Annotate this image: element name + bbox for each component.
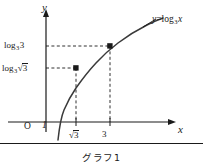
log-argument: 3 [20,40,25,50]
radical-sqrt3: √3 [69,130,79,140]
plot-area [0,0,203,166]
x-tick-label-sqrt3: √3 [69,130,79,140]
figure-caption: グラフ1 [0,150,203,164]
y-axis-label: y [42,2,47,13]
log-function-name: log [2,64,14,73]
radical-sqrt3: √3 [18,63,28,73]
radicand: 3 [22,63,28,73]
equation-argument: x [178,14,182,24]
equation-log-name: log [162,14,174,24]
data-point-sqrt3 [73,65,78,70]
curve-equation-label: y=log3x [152,15,182,25]
x-tick-label-one: 1 [42,121,47,131]
y-tick-label-log3-of-3: log33 [4,41,24,50]
x-axis-label: x [178,124,183,135]
log-base: 3 [14,67,18,74]
data-point-three [107,43,112,48]
origin-label: O [24,122,31,132]
log-function-name: log [4,41,16,50]
y-tick-label-log3-of-sqrt3: log3√3 [2,63,28,73]
x-axis-arrowhead [168,119,176,125]
logarithm-graph-figure: y x O 1 √3 3 log33 log3√3 y=log3x グラフ1 [0,0,203,166]
equation-log-base: 3 [174,18,178,25]
radicand: 3 [73,130,79,140]
log-base: 3 [16,44,20,51]
x-tick-label-three: 3 [102,130,107,139]
